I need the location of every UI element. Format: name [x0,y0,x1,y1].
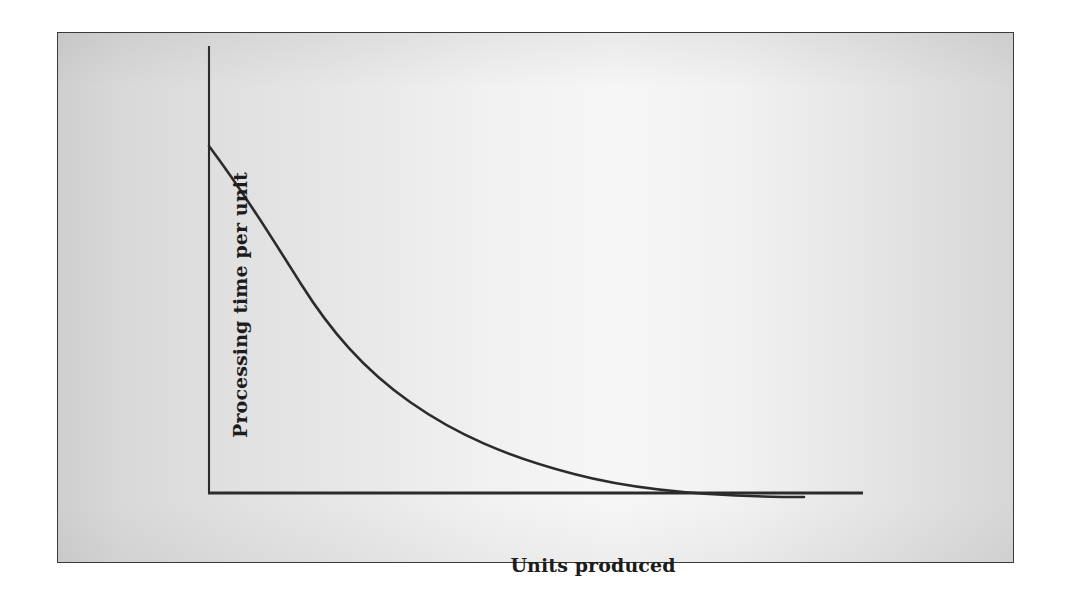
y-axis-title: Processing time per unit [223,165,257,445]
x-axis-title: Units produced [438,554,748,576]
learning-curve-line [209,146,804,497]
figure-frame: Processing time per unit Units produced [57,32,1014,563]
figure-page: Processing time per unit Units produced [0,0,1072,592]
plot-area [58,33,1015,564]
